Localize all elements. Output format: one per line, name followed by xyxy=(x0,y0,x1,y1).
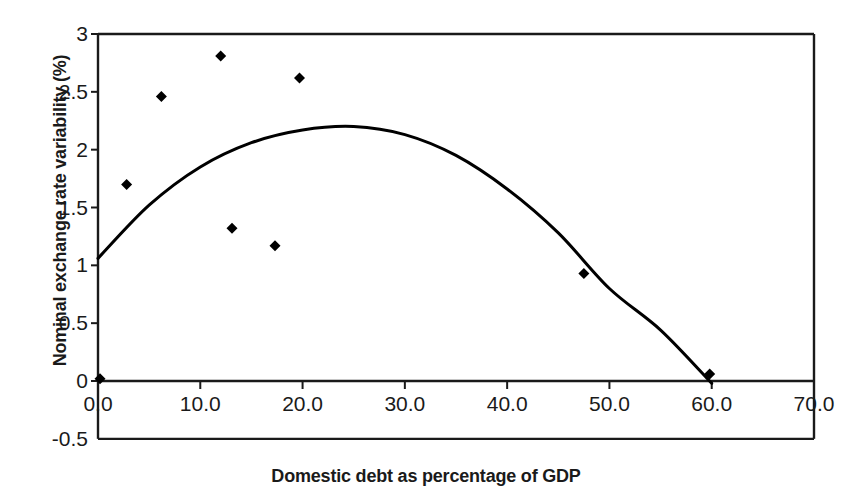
data-point-marker xyxy=(578,268,589,279)
chart-figure: Nominal exchange rate variability (%) Do… xyxy=(0,0,851,501)
trendline-curve xyxy=(98,126,712,383)
plot-area xyxy=(0,0,851,501)
data-point-marker xyxy=(294,73,305,84)
data-point-marker xyxy=(95,373,106,384)
data-point-marker xyxy=(121,179,132,190)
data-point-marker xyxy=(227,223,238,234)
data-point-marker xyxy=(156,91,167,102)
data-point-marker xyxy=(215,51,226,62)
data-points xyxy=(95,51,716,385)
axis-ticks xyxy=(91,34,814,389)
data-point-marker xyxy=(270,240,281,251)
